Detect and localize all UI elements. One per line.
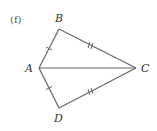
segment-bc — [59, 29, 136, 68]
kite-diagram: (f) B A C D — [0, 0, 157, 131]
vertex-label-b: B — [54, 12, 63, 25]
vertex-label-c: C — [141, 62, 150, 75]
part-label: (f) — [10, 14, 22, 25]
vertex-label-a: A — [24, 62, 33, 75]
vertex-label-d: D — [53, 112, 63, 125]
segment-dc — [59, 68, 136, 108]
